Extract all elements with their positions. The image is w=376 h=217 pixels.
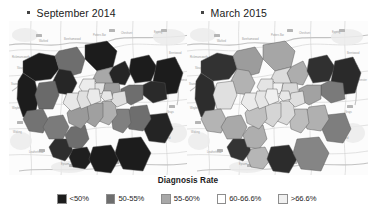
panel-title-right-label: March 2015: [211, 7, 267, 19]
map-march-2015: [187, 21, 368, 175]
legend-item: 60-66.6%: [217, 194, 262, 204]
legend-item: 55-60%: [161, 194, 199, 204]
legend-label: 55-60%: [174, 194, 200, 203]
legend-item: <50%: [57, 194, 89, 204]
maps-container: Watford Borehamwood Potters Bar Cheshunt…: [0, 21, 376, 175]
legend-item: >66.6%: [278, 194, 316, 204]
legend-swatch: [161, 194, 171, 204]
legend-swatch: [106, 194, 116, 204]
square-bullet-icon: [27, 11, 30, 14]
legend-label: <50%: [70, 194, 89, 203]
map-september-2014: Watford Borehamwood Potters Bar Cheshunt…: [9, 21, 190, 175]
legend-item: 50-55%: [106, 194, 144, 204]
legend-swatch: [278, 194, 288, 204]
legend-label: 50-55%: [118, 194, 144, 203]
panel-title-left-label: September 2014: [37, 7, 116, 19]
legend-title: Diagnosis Rate: [0, 176, 376, 185]
panel-title-left: September 2014: [27, 7, 116, 19]
legend-label: 60-66.6%: [229, 194, 261, 203]
legend-swatch: [57, 194, 67, 204]
legend-label: >66.6%: [291, 194, 317, 203]
panel-title-right: March 2015: [201, 7, 267, 19]
slide-root: September 2014 March 2015: [0, 0, 376, 217]
map-svg-left: Watford Borehamwood Potters Bar Cheshunt…: [9, 21, 190, 175]
square-bullet-icon: [201, 11, 204, 14]
map-svg-right: [187, 21, 368, 175]
legend: <50% 50-55% 55-60% 60-66.6% >66.6%: [57, 194, 316, 204]
legend-swatch: [217, 194, 227, 204]
